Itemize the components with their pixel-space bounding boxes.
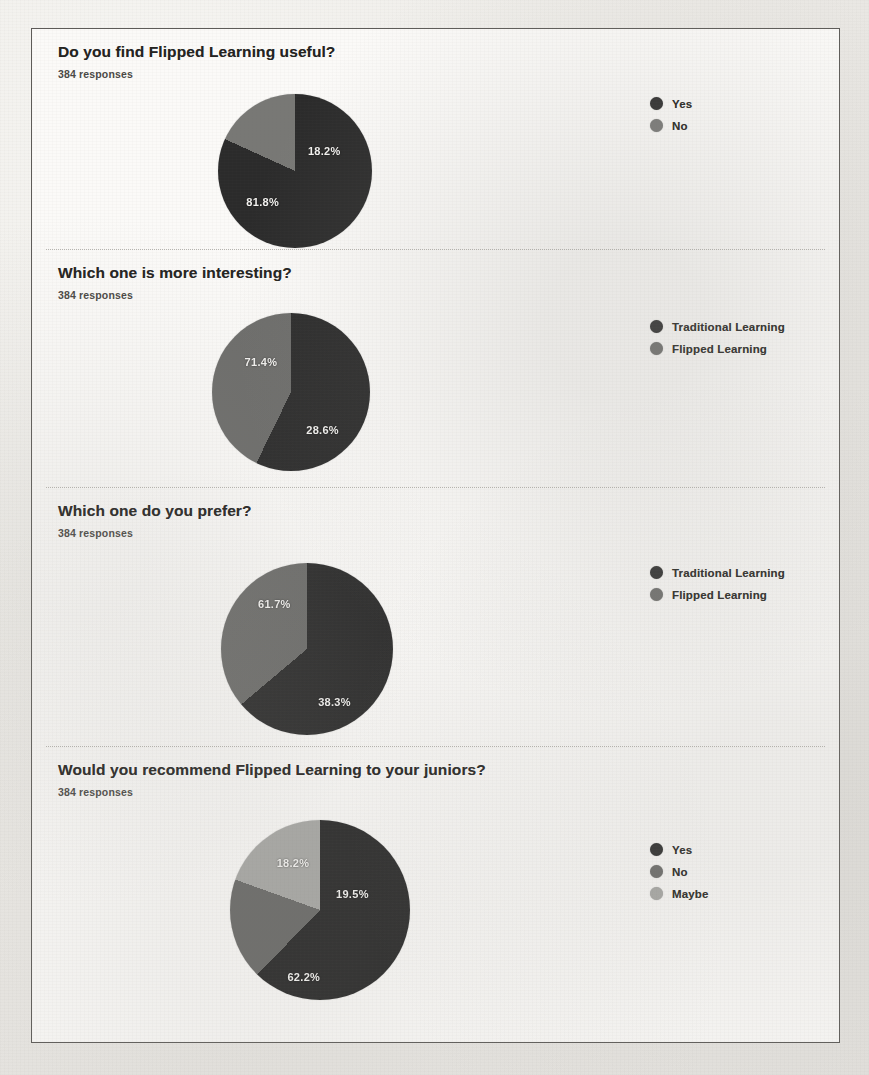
slice-label-1-0: 81.8% <box>246 196 279 208</box>
legend-item-yes[interactable]: Yes <box>650 96 692 111</box>
legend-swatch-icon-3-0 <box>650 566 663 579</box>
legend-swatch-icon-4-0 <box>650 843 663 856</box>
legend-label-1-1: No <box>672 120 688 132</box>
slice-label-4-1: 18.2% <box>277 857 310 869</box>
legend-item-no[interactable]: No <box>650 864 709 879</box>
question-title-3: Which one do you prefer? <box>58 488 839 520</box>
survey-question-section-2: Which one is more interesting? 384 respo… <box>32 250 839 487</box>
results-page-frame: Do you find Flipped Learning useful? 384… <box>31 28 840 1043</box>
legend-item-flipped-learning[interactable]: Flipped Learning <box>650 587 785 602</box>
slice-label-2-0: 28.6% <box>306 424 339 436</box>
legend-label-1-0: Yes <box>672 98 692 110</box>
legend-swatch-icon-1-1 <box>650 119 663 132</box>
pie-graphic-2: 28.6% 71.4% <box>212 313 370 471</box>
legend-label-3-0: Traditional Learning <box>672 567 785 579</box>
pie-chart-4: 62.2% 18.2% 19.5% <box>230 820 410 1000</box>
question-title-2: Which one is more interesting? <box>58 250 839 282</box>
legend-3: Traditional Learning Flipped Learning <box>650 565 785 609</box>
survey-question-section-3: Which one do you prefer? 384 responses 3… <box>32 488 839 746</box>
response-count-1: 384 responses <box>58 61 839 80</box>
question-title-1: Do you find Flipped Learning useful? <box>58 29 839 61</box>
legend-item-traditional-learning[interactable]: Traditional Learning <box>650 319 785 334</box>
slice-label-1-1: 18.2% <box>308 145 341 157</box>
legend-item-traditional-learning[interactable]: Traditional Learning <box>650 565 785 580</box>
slice-label-4-2: 19.5% <box>336 888 369 900</box>
legend-item-no[interactable]: No <box>650 118 692 133</box>
legend-swatch-icon-4-1 <box>650 865 663 878</box>
response-count-2: 384 responses <box>58 282 839 301</box>
chart-area-3: 38.3% 61.7% Traditional Learning Flipped… <box>58 539 839 735</box>
legend-swatch-icon-4-2 <box>650 887 663 900</box>
slice-label-3-1: 61.7% <box>258 598 291 610</box>
legend-item-yes[interactable]: Yes <box>650 842 709 857</box>
pie-graphic-4: 62.2% 18.2% 19.5% <box>230 820 410 1000</box>
legend-item-maybe[interactable]: Maybe <box>650 886 709 901</box>
legend-label-4-0: Yes <box>672 844 692 856</box>
chart-area-1: 81.8% 18.2% Yes No <box>58 80 839 240</box>
legend-item-flipped-learning[interactable]: Flipped Learning <box>650 341 785 356</box>
legend-2: Traditional Learning Flipped Learning <box>650 319 785 363</box>
legend-label-4-2: Maybe <box>672 888 709 900</box>
legend-swatch-icon-2-0 <box>650 320 663 333</box>
legend-swatch-icon-1-0 <box>650 97 663 110</box>
chart-area-4: 62.2% 18.2% 19.5% Yes No Maybe <box>58 798 839 1013</box>
pie-graphic-3: 38.3% 61.7% <box>221 563 393 735</box>
response-count-3: 384 responses <box>58 520 839 539</box>
legend-4: Yes No Maybe <box>650 842 709 908</box>
legend-label-2-0: Traditional Learning <box>672 321 785 333</box>
pie-chart-3: 38.3% 61.7% <box>221 563 393 735</box>
pie-graphic-1: 81.8% 18.2% <box>218 94 372 248</box>
response-count-4: 384 responses <box>58 779 839 798</box>
pie-chart-1: 81.8% 18.2% <box>218 94 372 248</box>
slice-label-2-1: 71.4% <box>245 356 278 368</box>
legend-label-2-1: Flipped Learning <box>672 343 767 355</box>
slice-label-3-0: 38.3% <box>318 696 351 708</box>
slice-label-4-0: 62.2% <box>287 971 320 983</box>
survey-question-section-1: Do you find Flipped Learning useful? 384… <box>32 29 839 249</box>
legend-swatch-icon-2-1 <box>650 342 663 355</box>
legend-label-4-1: No <box>672 866 688 878</box>
pie-chart-2: 28.6% 71.4% <box>212 313 370 471</box>
legend-swatch-icon-3-1 <box>650 588 663 601</box>
legend-label-3-1: Flipped Learning <box>672 589 767 601</box>
question-title-4: Would you recommend Flipped Learning to … <box>58 747 839 779</box>
legend-1: Yes No <box>650 96 692 140</box>
chart-area-2: 28.6% 71.4% Traditional Learning Flipped… <box>58 301 839 476</box>
survey-question-section-4: Would you recommend Flipped Learning to … <box>32 747 839 1032</box>
